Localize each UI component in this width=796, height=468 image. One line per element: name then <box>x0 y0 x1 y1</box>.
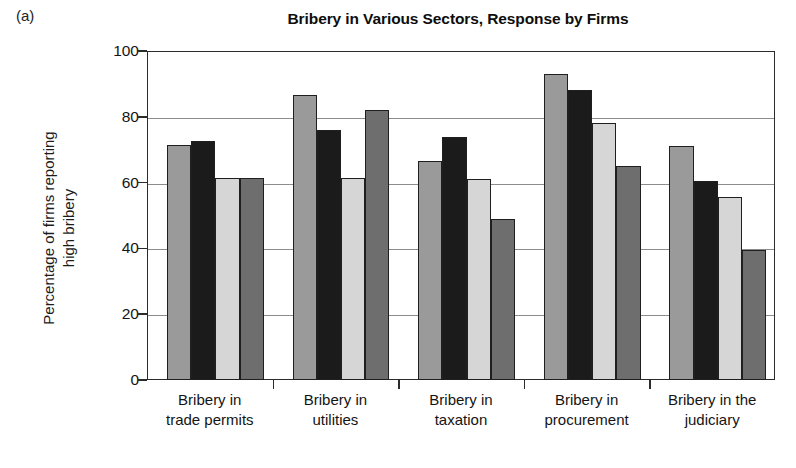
figure-panel: (a) Bribery in Various Sectors, Response… <box>0 0 796 468</box>
bar-5-1 <box>669 146 693 380</box>
x-tick-mark-1 <box>273 380 275 389</box>
y-tick-mark-60 <box>138 182 147 184</box>
x-group-label-5-line2: judiciary <box>637 410 787 430</box>
panel-letter: (a) <box>16 8 34 23</box>
bar-4-4 <box>616 166 640 380</box>
y-tick-label-60: 60 <box>79 175 139 191</box>
bar-2-3 <box>341 178 365 380</box>
bar-3-2 <box>442 137 466 380</box>
y-tick-mark-40 <box>138 248 147 250</box>
bar-2-4 <box>365 110 389 380</box>
y-tick-label-80: 80 <box>79 109 139 125</box>
bar-5-4 <box>742 250 766 380</box>
bar-4-2 <box>568 90 592 380</box>
chart-title: Bribery in Various Sectors, Response by … <box>140 10 776 28</box>
y-axis-title-line1: Percentage of firms reporting <box>40 131 57 324</box>
bar-1-4 <box>240 178 264 380</box>
bar-2-1 <box>293 95 317 380</box>
y-tick-label-40: 40 <box>79 240 139 256</box>
x-tick-mark-3 <box>524 380 526 389</box>
x-tick-mark-2 <box>398 380 400 389</box>
y-tick-mark-100 <box>138 50 147 52</box>
x-tick-mark-4 <box>649 380 651 389</box>
bar-2-2 <box>317 130 341 380</box>
y-axis-title: Percentage of firms reporting high bribe… <box>39 63 79 393</box>
bar-3-4 <box>491 219 515 380</box>
bar-1-2 <box>191 141 215 380</box>
y-axis-title-line2: high bribery <box>59 63 79 393</box>
bar-1-1 <box>167 145 191 380</box>
x-group-label-5: Bribery in thejudiciary <box>637 390 787 429</box>
bars-layer <box>147 51 775 380</box>
y-tick-mark-20 <box>138 313 147 315</box>
bar-5-2 <box>694 181 718 380</box>
bar-4-3 <box>592 123 616 380</box>
bar-3-1 <box>418 161 442 380</box>
bar-1-3 <box>215 178 239 380</box>
y-tick-mark-80 <box>138 116 147 118</box>
y-tick-mark-0 <box>138 379 147 381</box>
bar-5-3 <box>718 197 742 380</box>
bar-3-3 <box>467 179 491 380</box>
bar-4-1 <box>544 74 568 380</box>
y-tick-label-20: 20 <box>79 306 139 322</box>
y-tick-label-0: 0 <box>79 372 139 388</box>
y-tick-label-100: 100 <box>79 43 139 59</box>
x-group-label-5-line1: Bribery in the <box>637 390 787 410</box>
